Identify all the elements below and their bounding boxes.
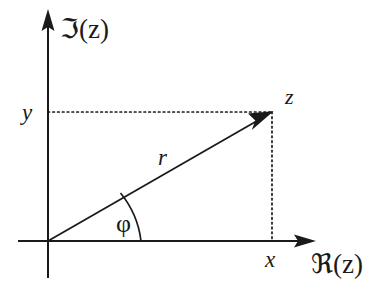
argand-diagram-svg: ℑ(z) ℜ(z) y x r z φ <box>0 0 379 286</box>
imaginary-axis-label: ℑ(z) <box>60 14 109 44</box>
x-projection-label: x <box>264 247 276 272</box>
real-axis-label: ℜ(z) <box>311 249 363 279</box>
radius-vector-line <box>48 118 262 241</box>
point-z-label: z <box>284 84 294 109</box>
angle-phi-label: φ <box>116 209 131 238</box>
radius-vector-group <box>48 111 274 241</box>
y-projection-label: y <box>20 100 33 125</box>
radius-vector-arrowhead-icon <box>248 111 274 130</box>
radius-vector-label: r <box>158 145 168 170</box>
argand-diagram-figure: ℑ(z) ℜ(z) y x r z φ <box>0 0 379 286</box>
